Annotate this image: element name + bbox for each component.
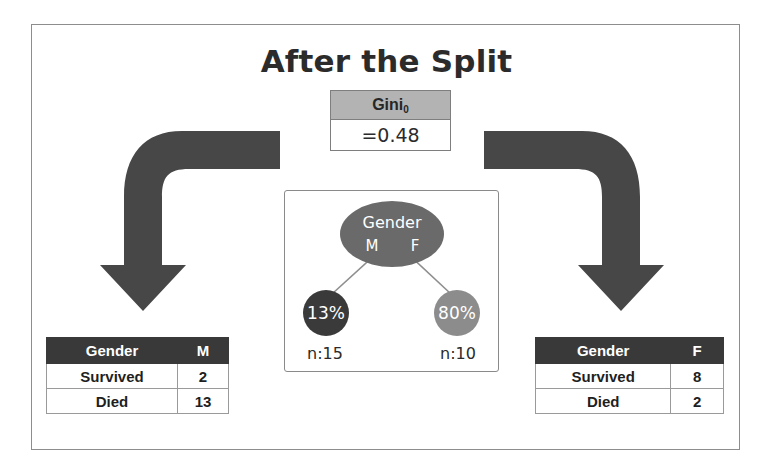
- slide-frame: After the Split Gini0 =0.48 Gender M F 1…: [31, 24, 740, 450]
- table-header-group: M: [178, 338, 229, 364]
- cell-value-died: 13: [178, 389, 229, 414]
- page-title: After the Split: [32, 43, 741, 79]
- cell-value-survived: 8: [671, 364, 724, 389]
- arrow-to-female-table: [480, 125, 670, 315]
- leaf-count-male: n:15: [307, 344, 343, 363]
- cell-label-died: Died: [536, 389, 671, 414]
- table-row: Died 13: [47, 389, 229, 414]
- table-header-group: F: [671, 338, 724, 364]
- gini-value: =0.48: [331, 120, 450, 150]
- table-header-row: Gender F: [536, 338, 724, 364]
- root-branch-label-male: M: [366, 237, 379, 255]
- cell-value-survived: 2: [178, 364, 229, 389]
- gini-label-text: Gini: [372, 96, 403, 114]
- table-row: Survived 8: [536, 364, 724, 389]
- root-branch-label-female: F: [411, 237, 420, 255]
- root-node-gender: [340, 201, 444, 267]
- decision-tree-panel: Gender M F 13% n:15 80% n:10: [284, 190, 499, 372]
- leaf-percent-male: 13%: [307, 303, 345, 323]
- contingency-table-male: Gender M Survived 2 Died 13: [46, 337, 229, 414]
- cell-label-died: Died: [47, 389, 178, 414]
- table-header-row: Gender M: [47, 338, 229, 364]
- decision-tree-graphic: Gender M F 13% n:15 80% n:10: [285, 191, 498, 371]
- table-header-gender: Gender: [47, 338, 178, 364]
- gini-label: Gini0: [331, 91, 450, 120]
- gini-box: Gini0 =0.48: [330, 90, 451, 151]
- cell-value-died: 2: [671, 389, 724, 414]
- contingency-table-female: Gender F Survived 8 Died 2: [535, 337, 724, 414]
- arrow-to-male-table: [94, 125, 284, 315]
- table-header-gender: Gender: [536, 338, 671, 364]
- cell-label-survived: Survived: [47, 364, 178, 389]
- root-node-label: Gender: [363, 213, 422, 232]
- leaf-count-female: n:10: [440, 344, 476, 363]
- gini-subscript: 0: [403, 104, 409, 115]
- leaf-percent-female: 80%: [438, 303, 476, 323]
- table-row: Died 2: [536, 389, 724, 414]
- cell-label-survived: Survived: [536, 364, 671, 389]
- table-row: Survived 2: [47, 364, 229, 389]
